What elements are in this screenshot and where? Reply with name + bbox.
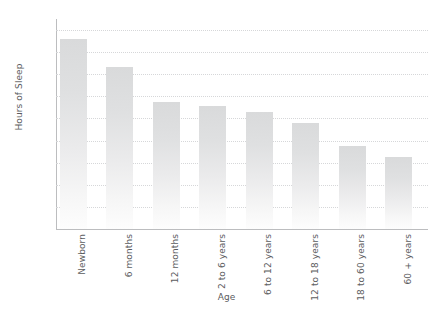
bar <box>106 67 133 229</box>
bar <box>339 146 366 229</box>
sleep-hours-bar-chart: Hours of Sleep 24681012141618 Newborn6 m… <box>0 0 429 311</box>
bar <box>199 106 226 229</box>
bar <box>153 102 180 229</box>
bar <box>246 112 273 229</box>
cropped-title-strip <box>0 0 429 7</box>
bar <box>292 123 319 229</box>
gridline <box>56 30 428 31</box>
bar <box>385 157 412 229</box>
plot-area <box>56 19 428 229</box>
y-axis-title: Hours of Sleep <box>14 42 24 152</box>
bar <box>60 39 87 229</box>
x-axis-line <box>56 229 428 230</box>
x-axis-title: Age <box>0 292 429 302</box>
gridline <box>56 52 428 53</box>
